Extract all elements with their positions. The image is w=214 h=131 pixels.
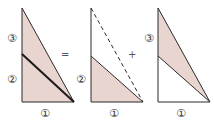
plus-sign: +: [128, 49, 136, 60]
label-segment-2: ②: [76, 73, 86, 86]
label-segment-2: ②: [7, 73, 17, 86]
label-segment-1: ①: [109, 107, 119, 120]
label-segment-1: ①: [40, 107, 50, 120]
label-segment-1: ①: [176, 107, 186, 120]
label-segment-3: ③: [144, 32, 154, 45]
label-segment-3: ③: [7, 32, 17, 45]
equals-sign: =: [61, 49, 69, 60]
triangle-area-decomposition-diagram: ③ ② ① = ② ① + ③ ①: [0, 0, 214, 131]
figure-whole-triangle: ③ ② ①: [7, 8, 74, 120]
figure-upper-sliver: ③ ①: [144, 8, 210, 120]
figure-lower-triangle: ② ①: [76, 8, 143, 120]
